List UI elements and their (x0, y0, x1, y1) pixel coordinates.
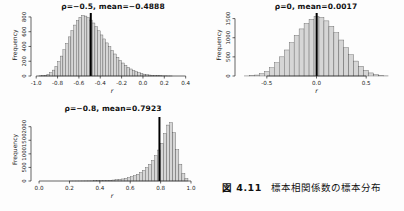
figure-4-11: ρ=−0.5, mean=−0.4888 ρ=0, mean=0.0017 ρ=… (0, 0, 404, 211)
svg-text:0.2: 0.2 (65, 185, 74, 191)
histogram-rho-0: -0.50.00.5050010001500Frequencyr (202, 0, 404, 100)
svg-text:1500: 1500 (225, 11, 231, 25)
svg-text:0: 0 (21, 74, 27, 78)
svg-text:500: 500 (225, 51, 231, 62)
svg-text:-0.4: -0.4 (95, 80, 106, 86)
svg-text:-1.0: -1.0 (31, 80, 42, 86)
svg-text:400: 400 (21, 41, 27, 52)
svg-text:0.0: 0.0 (312, 80, 321, 86)
svg-text:-0.6: -0.6 (73, 80, 84, 86)
figure-caption: 図 4.11標本相関係数の標本分布 (222, 180, 381, 194)
svg-text:Frequency: Frequency (11, 29, 19, 60)
histogram-rho-neg0p8: 0.00.20.40.60.81.00500100015002000Freque… (0, 103, 202, 205)
svg-text:0.2: 0.2 (160, 80, 169, 86)
svg-text:Frequency: Frequency (11, 134, 19, 165)
figure-number: 図 4.11 (222, 182, 262, 193)
svg-text:0.4: 0.4 (181, 80, 190, 86)
svg-text:1.0: 1.0 (187, 185, 196, 191)
svg-text:-0.2: -0.2 (116, 80, 127, 86)
svg-text:0.5: 0.5 (362, 80, 371, 86)
svg-text:Frequency: Frequency (215, 29, 223, 60)
svg-text:0: 0 (21, 179, 27, 183)
svg-text:200: 200 (21, 56, 27, 67)
svg-text:500: 500 (21, 162, 27, 173)
histogram-bars (69, 123, 187, 181)
svg-text:1000: 1000 (225, 30, 231, 44)
svg-text:1500: 1500 (21, 133, 27, 147)
svg-text:600: 600 (21, 26, 27, 37)
svg-text:0.0: 0.0 (139, 80, 148, 86)
svg-text:0: 0 (225, 74, 231, 78)
svg-text:1000: 1000 (21, 146, 27, 160)
svg-text:-0.8: -0.8 (52, 80, 63, 86)
svg-text:-0.5: -0.5 (261, 80, 272, 86)
svg-text:0.6: 0.6 (126, 185, 135, 191)
svg-text:r: r (315, 87, 318, 94)
svg-text:0.8: 0.8 (156, 185, 165, 191)
svg-text:2000: 2000 (21, 119, 27, 133)
svg-text:0.0: 0.0 (35, 185, 44, 191)
histogram-bars (39, 15, 172, 76)
figure-caption-text: 標本相関係数の標本分布 (271, 182, 381, 193)
svg-text:r: r (111, 192, 114, 199)
svg-text:0.4: 0.4 (95, 185, 104, 191)
svg-text:r: r (111, 87, 114, 94)
svg-text:800: 800 (21, 11, 27, 22)
histogram-rho-neg0p5: -1.0-0.8-0.6-0.4-0.20.00.20.402004006008… (0, 0, 202, 100)
